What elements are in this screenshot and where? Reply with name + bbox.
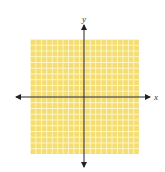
y-axis-label: y bbox=[82, 15, 86, 24]
x-axis-label: x bbox=[154, 93, 158, 102]
axes bbox=[0, 0, 165, 172]
